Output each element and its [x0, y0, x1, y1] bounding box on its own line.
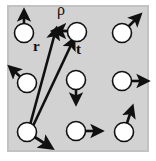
site-bottom-right — [115, 123, 134, 142]
lattice-diagram-canvas — [0, 0, 156, 161]
site-top-center — [68, 23, 87, 42]
site-middle-right — [113, 72, 132, 91]
vector-label-rho: ρ — [57, 2, 65, 18]
site-bottom-center — [67, 122, 86, 141]
site-middle-left — [18, 74, 37, 93]
vector-label-r: r — [33, 39, 40, 54]
site-middle-center — [67, 71, 86, 90]
spin-lattice-figure: ρ r t — [0, 0, 156, 161]
site-top-left — [15, 24, 34, 43]
vector-label-t: t — [76, 42, 81, 57]
site-top-right — [113, 24, 132, 43]
site-bottom-left — [18, 123, 37, 142]
